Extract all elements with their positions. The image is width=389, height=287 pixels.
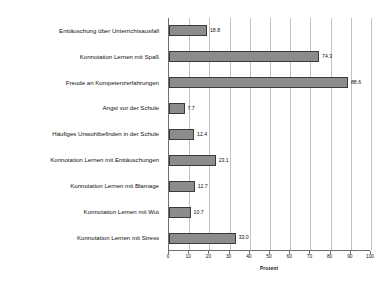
tick-label-90: 90 — [347, 255, 352, 260]
category-label: Konnotation Lernen mit Spaß — [0, 44, 163, 70]
tick-label-30: 30 — [226, 255, 231, 260]
bar-row: 88.6 — [169, 70, 370, 96]
bar — [169, 129, 194, 140]
tick-label-40: 40 — [246, 255, 251, 260]
bar — [169, 103, 185, 114]
bar-value-label: 12.4 — [197, 132, 207, 137]
category-label: Konnotation Lernen mit Stress — [0, 225, 163, 251]
bar-row: 7.7 — [169, 96, 370, 122]
bar-value-label: 7.7 — [188, 106, 195, 111]
category-label: Häufiges Unwohlbefinden in der Schule — [0, 122, 163, 148]
bar-rows: 18.874.388.67.712.423.112.710.733.0 — [169, 18, 370, 250]
category-label: Konnotation Lernen mit Enttäuschungen — [0, 147, 163, 173]
bar-row: 18.8 — [169, 18, 370, 44]
bar-value-label: 88.6 — [351, 80, 361, 85]
x-axis-ticks: 0102030405060708090100 — [168, 251, 370, 263]
tick-label-80: 80 — [327, 255, 332, 260]
tick-label-70: 70 — [307, 255, 312, 260]
bar-row: 23.1 — [169, 147, 370, 173]
tick-label-10: 10 — [186, 255, 191, 260]
bar — [169, 207, 191, 218]
bar-row: 12.4 — [169, 122, 370, 148]
tick-label-20: 20 — [206, 255, 211, 260]
bar-row: 12.7 — [169, 173, 370, 199]
bar-value-label: 23.1 — [219, 158, 229, 163]
category-label: Freude an Kompetenzerfahrungen — [0, 70, 163, 96]
tick-label-100: 100 — [366, 255, 374, 260]
tick-label-60: 60 — [287, 255, 292, 260]
tick-label-0: 0 — [167, 255, 170, 260]
tick-label-50: 50 — [266, 255, 271, 260]
bar-row: 74.3 — [169, 44, 370, 70]
bar — [169, 25, 207, 36]
category-label: Enttäuschung über Unterrichtsausfall — [0, 18, 163, 44]
category-label: Konnotation Lernen mit Wut — [0, 199, 163, 225]
gridline-100 — [371, 18, 372, 250]
category-axis-labels: Enttäuschung über UnterrichtsausfallKonn… — [0, 18, 163, 251]
bar-value-label: 74.3 — [322, 54, 332, 59]
bar-chart: Enttäuschung über UnterrichtsausfallKonn… — [0, 0, 389, 287]
x-axis-title: Prozent — [168, 266, 370, 271]
bar-row: 33.0 — [169, 225, 370, 251]
bar — [169, 77, 348, 88]
bar-value-label: 18.8 — [210, 28, 220, 33]
bar-value-label: 33.0 — [239, 235, 249, 240]
bar-value-label: 12.7 — [198, 184, 208, 189]
bar — [169, 155, 216, 166]
category-label: Konnotation Lernen mit Blamage — [0, 173, 163, 199]
bar-value-label: 10.7 — [194, 210, 204, 215]
plot-area: 18.874.388.67.712.423.112.710.733.0 — [168, 18, 370, 251]
bar — [169, 233, 236, 244]
bar — [169, 181, 195, 192]
category-label: Angst vor der Schule — [0, 96, 163, 122]
bar-row: 10.7 — [169, 199, 370, 225]
bar — [169, 51, 319, 62]
